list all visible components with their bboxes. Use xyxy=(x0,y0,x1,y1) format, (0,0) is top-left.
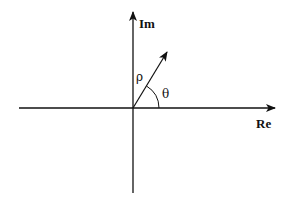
angle-label-theta: θ xyxy=(162,87,169,101)
real-axis-label: Re xyxy=(256,116,271,131)
imaginary-axis-label: Im xyxy=(139,16,155,31)
angle-arc xyxy=(147,86,160,108)
complex-plane-diagram: Im Re ρ θ xyxy=(0,0,288,206)
magnitude-label-rho: ρ xyxy=(136,70,143,84)
